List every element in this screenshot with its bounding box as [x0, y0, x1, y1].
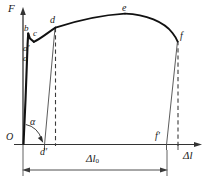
- point-label-d: d: [50, 15, 55, 25]
- plot-canvas: [0, 0, 207, 189]
- x-axis-arrowhead: [194, 142, 202, 147]
- origin-label-O: O: [6, 132, 13, 142]
- dashed-projections-group: [56, 28, 179, 146]
- point-label-a-prime: a′: [23, 44, 29, 53]
- dimension-label-subscript: 0: [96, 157, 100, 165]
- point-label-e: e: [122, 3, 126, 13]
- curve-segment-e-to-f: [125, 14, 178, 42]
- dimension-label-delta-l0: Δl0: [86, 153, 99, 165]
- force-extension-figure: F Δl O α a′ a b c d d′ e f f′ Δl0: [0, 0, 207, 189]
- unloading-lines-group: [45, 28, 178, 145]
- angle-alpha-arrowhead: [38, 136, 43, 143]
- point-label-a: a: [23, 54, 28, 63]
- point-label-f-prime: f′: [155, 131, 160, 141]
- unload-line-d: [45, 28, 56, 145]
- point-label-d-prime: d′: [40, 147, 47, 157]
- angle-label-alpha: α: [30, 117, 35, 127]
- angle-alpha-group: [26, 125, 43, 143]
- unload-line-f: [167, 41, 178, 145]
- point-label-b: b: [24, 24, 29, 33]
- axis-label-F: F: [8, 3, 15, 14]
- axis-label-delta-l: Δl: [183, 150, 193, 161]
- point-label-c: c: [33, 29, 37, 38]
- point-label-f: f: [180, 31, 183, 41]
- curve-segment-c-to-d: [34, 28, 56, 42]
- y-axis-arrowhead: [20, 7, 26, 15]
- curve-segment-d-to-e: [56, 14, 126, 28]
- dimension-label-main: Δl: [86, 152, 96, 164]
